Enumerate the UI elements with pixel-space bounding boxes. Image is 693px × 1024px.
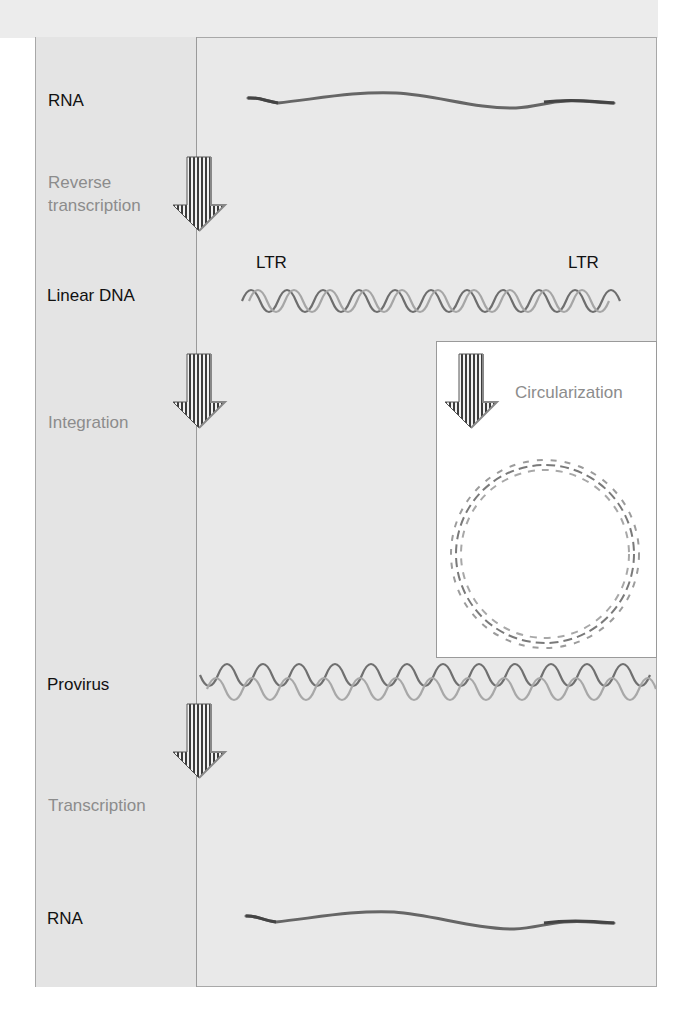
process-label-transcription-line2: transcription — [48, 195, 141, 217]
arrow-down-icon-reverse-transcription — [173, 157, 225, 233]
stage-label-linear-dna: Linear DNA — [47, 285, 135, 307]
linear-dna-helix — [242, 283, 622, 305]
rna-strand-bottom — [244, 907, 616, 937]
process-label-circularization: Circularization — [515, 382, 623, 404]
ltr-label-right: LTR — [568, 252, 599, 274]
ltr-label-left: LTR — [256, 252, 287, 274]
stage-label-provirus: Provirus — [47, 674, 109, 696]
process-label-reverse: Reverse — [48, 172, 111, 194]
process-label-integration: Integration — [48, 412, 128, 434]
top-background-band — [0, 0, 658, 38]
arrow-down-icon-circularization — [445, 354, 497, 430]
stage-label-rna-bottom: RNA — [47, 908, 83, 930]
rna-strand-top — [246, 85, 616, 115]
circularization-inset: Circularization — [436, 341, 657, 658]
provirus-helix — [200, 671, 656, 693]
arrow-down-icon-transcription — [173, 704, 225, 780]
arrow-down-icon-integration — [173, 354, 225, 430]
process-label-transcription: Transcription — [48, 795, 146, 817]
stage-label-rna-top: RNA — [48, 90, 84, 112]
circular-dna — [445, 454, 645, 654]
